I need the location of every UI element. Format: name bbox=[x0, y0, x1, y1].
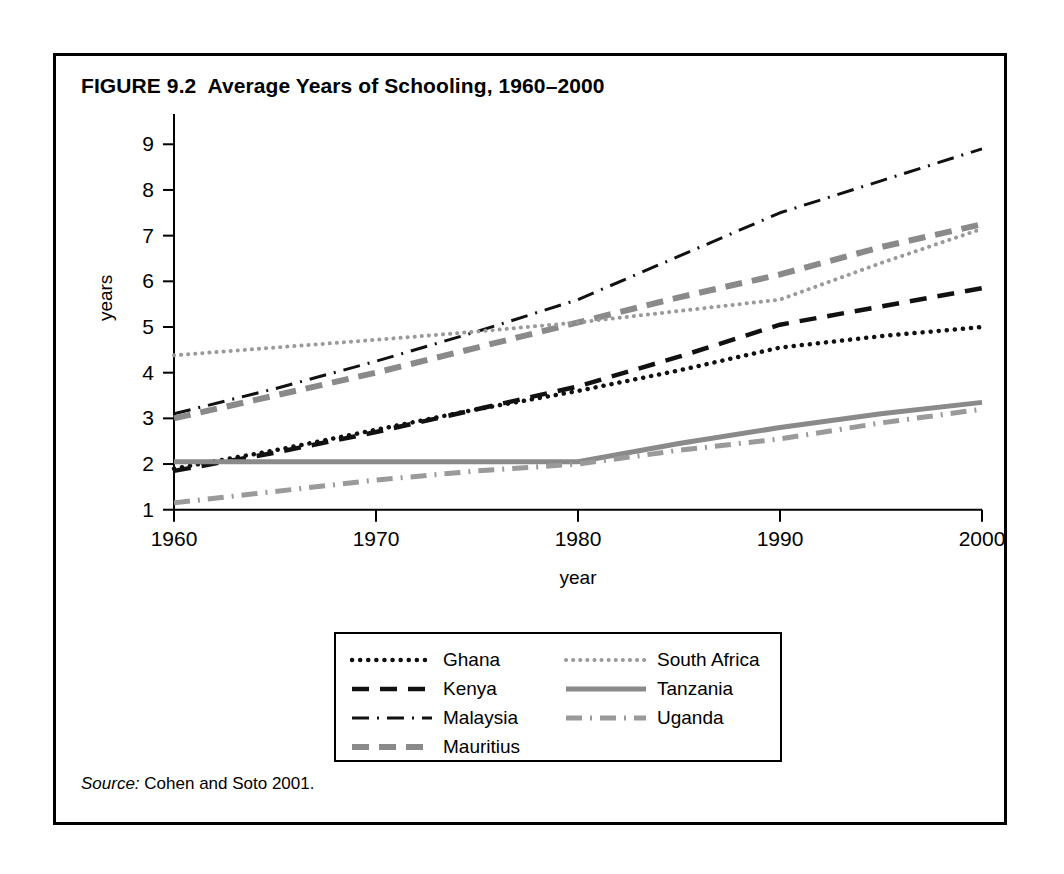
series-line-uganda bbox=[174, 409, 982, 503]
legend-item-south-africa[interactable]: South Africa bbox=[564, 645, 759, 674]
legend-label: Uganda bbox=[657, 707, 724, 729]
legend-column-left: GhanaKenyaMalaysiaMauritius bbox=[350, 645, 520, 761]
svg-text:1970: 1970 bbox=[353, 527, 400, 550]
legend-item-tanzania[interactable]: Tanzania bbox=[564, 674, 759, 703]
svg-text:8: 8 bbox=[142, 178, 154, 201]
chart-legend: GhanaKenyaMalaysiaMauritius South Africa… bbox=[334, 632, 782, 762]
legend-swatch bbox=[350, 653, 434, 667]
svg-text:6: 6 bbox=[142, 269, 154, 292]
source-text: Cohen and Soto 2001. bbox=[140, 774, 315, 793]
svg-text:4: 4 bbox=[142, 361, 154, 384]
svg-text:year: year bbox=[560, 567, 598, 588]
svg-text:1: 1 bbox=[142, 498, 154, 521]
chart-tick-labels: 12345678919601970198019902000yearyears bbox=[95, 132, 1005, 587]
figure-frame: FIGURE 9.2 Average Years of Schooling, 1… bbox=[53, 53, 1007, 825]
legend-label: Mauritius bbox=[443, 736, 520, 758]
source-label: Source: bbox=[81, 774, 140, 793]
legend-swatch bbox=[564, 653, 648, 667]
legend-swatch bbox=[564, 711, 648, 725]
svg-text:1980: 1980 bbox=[555, 527, 602, 550]
chart-series-group bbox=[174, 149, 982, 503]
legend-swatch bbox=[350, 740, 434, 754]
legend-item-uganda[interactable]: Uganda bbox=[564, 703, 759, 732]
legend-swatch bbox=[350, 682, 434, 696]
svg-text:2: 2 bbox=[142, 452, 154, 475]
svg-text:9: 9 bbox=[142, 132, 154, 155]
svg-text:3: 3 bbox=[142, 406, 154, 429]
legend-label: Tanzania bbox=[657, 678, 733, 700]
svg-text:7: 7 bbox=[142, 224, 154, 247]
svg-text:years: years bbox=[95, 275, 116, 321]
series-line-malaysia bbox=[174, 149, 982, 414]
svg-text:5: 5 bbox=[142, 315, 154, 338]
legend-column-right: South AfricaTanzaniaUganda bbox=[564, 645, 759, 732]
legend-item-mauritius[interactable]: Mauritius bbox=[350, 732, 520, 761]
svg-text:1960: 1960 bbox=[151, 527, 198, 550]
source-note: Source: Cohen and Soto 2001. bbox=[81, 774, 314, 794]
legend-item-ghana[interactable]: Ghana bbox=[350, 645, 520, 674]
legend-item-kenya[interactable]: Kenya bbox=[350, 674, 520, 703]
legend-label: Malaysia bbox=[443, 707, 518, 729]
legend-label: Ghana bbox=[443, 649, 500, 671]
svg-text:2000: 2000 bbox=[959, 527, 1006, 550]
legend-label: Kenya bbox=[443, 678, 497, 700]
legend-swatch bbox=[350, 711, 434, 725]
svg-text:1990: 1990 bbox=[757, 527, 804, 550]
legend-swatch bbox=[564, 682, 648, 696]
series-line-kenya bbox=[174, 288, 982, 471]
legend-item-malaysia[interactable]: Malaysia bbox=[350, 703, 520, 732]
legend-label: South Africa bbox=[657, 649, 759, 671]
series-line-tanzania bbox=[174, 402, 982, 461]
series-line-south-africa bbox=[174, 229, 982, 356]
